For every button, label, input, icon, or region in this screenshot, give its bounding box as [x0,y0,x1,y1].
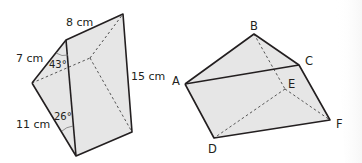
background-decoration [335,0,362,163]
vertex-e-label: E [288,77,295,91]
angle-43: 43° [49,59,67,70]
left-prism-faces [32,14,132,156]
right-triangular-prism: A B C D E F [172,19,343,156]
vertex-f-label: F [336,117,343,131]
vertex-a-label: A [172,74,180,88]
diagram-canvas: 8 cm 7 cm 11 cm 15 cm 43° 26° A B C D E … [0,0,362,163]
left-triangular-prism: 8 cm 7 cm 11 cm 15 cm 43° 26° [16,14,165,156]
label-8cm: 8 cm [66,16,93,29]
vertex-d-label: D [208,142,217,156]
vertex-c-label: C [305,54,313,68]
label-7cm: 7 cm [16,52,43,65]
right-prism-faces [185,34,330,138]
label-11cm: 11 cm [16,118,50,131]
label-15cm: 15 cm [131,70,165,83]
vertex-b-label: B [250,19,258,33]
angle-26: 26° [54,111,72,122]
